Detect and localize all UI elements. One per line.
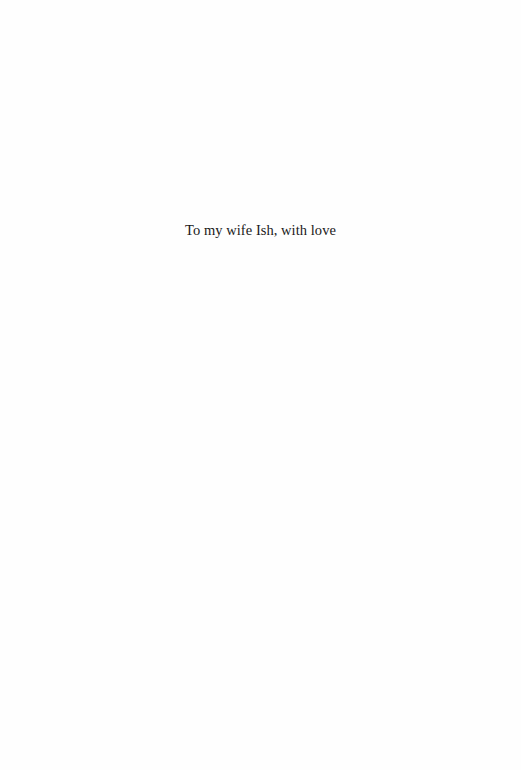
dedication-text: To my wife Ish, with love — [0, 221, 521, 239]
dedication-page: To my wife Ish, with love — [0, 0, 521, 770]
